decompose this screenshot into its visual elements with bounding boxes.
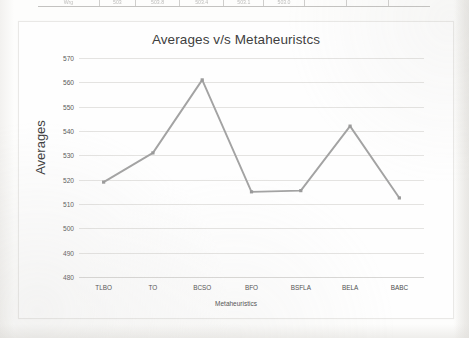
data-point-marker [299,189,302,192]
table-row: Wrg 503 503.8 503.4 503.1 503.0 [38,0,430,7]
x-axis-tick-label: BELA [342,284,358,291]
plot-area: 570560550540530520510500490480 TLBOTOBCS… [79,58,424,277]
table-cell [388,0,430,6]
y-axis-tick-label: 530 [63,152,74,159]
data-point-marker [201,78,204,81]
chart-container: Averages v/s Metaheuristcs Averages 5705… [18,21,454,319]
y-axis-tick-label: 540 [63,128,74,135]
data-point-marker [348,125,351,128]
x-axis-tick-label: TLBO [95,284,112,291]
x-axis-tick-label: BSFLA [291,284,311,291]
gridline [79,277,424,278]
y-axis-tick-label: 520 [63,176,74,183]
y-axis-tick-label: 500 [63,225,74,232]
table-cell [346,0,388,6]
data-point-marker [151,151,154,154]
table-cell: 503.1 [223,0,263,6]
x-axis-tick-label: TO [149,284,158,291]
table-fragment: Wrg 503 503.8 503.4 503.1 503.0 [38,0,430,6]
table-cell: 503.4 [179,0,223,6]
table-cell: Wrg [38,0,99,6]
table-cell: 503.0 [263,0,303,6]
series-line [104,80,400,198]
x-axis-title: Metaheuristics [19,300,453,307]
y-axis-tick-label: 480 [63,274,74,281]
y-axis-title: Averages [33,103,48,193]
chart-title: Averages v/s Metaheuristcs [19,32,453,47]
x-axis-tick-label: BFO [245,284,258,291]
data-point-marker [398,196,401,199]
y-axis-tick-label: 550 [63,103,74,110]
x-axis-tick-label: BABC [391,284,408,291]
table-cell [304,0,346,6]
table-cell: 503 [99,0,135,6]
line-series [79,58,424,277]
y-axis-tick-label: 510 [63,201,74,208]
data-point-marker [102,181,105,184]
x-axis-tick-label: BCSO [193,284,211,291]
y-axis-tick-label: 560 [63,79,74,86]
y-axis-tick-label: 490 [63,249,74,256]
y-axis-tick-label: 570 [63,55,74,62]
table-cell: 503.8 [135,0,179,6]
data-point-marker [250,190,253,193]
